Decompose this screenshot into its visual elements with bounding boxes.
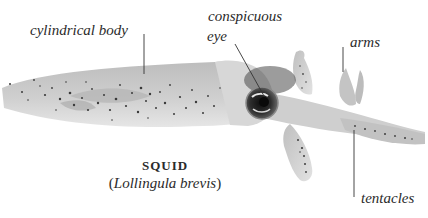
species-caption: SQUID (Lollingula brevis) (100, 158, 230, 192)
scientific-name-line: (Lollingula brevis) (100, 174, 230, 192)
scientific-name: Lollingula brevis (114, 175, 216, 191)
mantle (2, 60, 274, 127)
label-eye: eye (207, 28, 227, 44)
label-arms: arms (350, 34, 380, 50)
common-name: SQUID (100, 158, 230, 174)
squid-diagram: cylindrical body conspicuous eye arms te… (0, 0, 428, 218)
label-tentacles: tentacles (361, 190, 414, 206)
lower-arm (283, 124, 312, 181)
arms (293, 50, 364, 105)
label-conspicuous: conspicuous (208, 8, 282, 24)
close-paren: ) (216, 175, 221, 191)
label-cylindrical-body: cylindrical body (30, 22, 128, 38)
